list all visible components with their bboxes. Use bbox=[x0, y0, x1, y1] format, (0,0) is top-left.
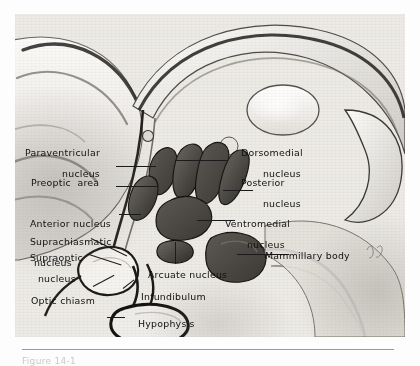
label-line-1: Supraoptic bbox=[30, 252, 83, 263]
label-line-1: Optic chiasm bbox=[31, 295, 95, 306]
label-mammillary-body: Mammillary body bbox=[252, 240, 350, 272]
leader-anterior bbox=[119, 214, 141, 215]
label-line-2: nucleus bbox=[38, 274, 76, 285]
label-line-1: Infundibulum bbox=[141, 291, 206, 302]
label-line-1: Arcuate nucleus bbox=[148, 269, 227, 280]
label-optic-chiasm: Optic chiasm bbox=[18, 285, 95, 317]
figure-page: Paraventricular nucleus Preoptic area An… bbox=[0, 0, 420, 366]
caption-text: Figure 14-1 bbox=[22, 356, 394, 366]
leader-dorsomedial bbox=[175, 160, 227, 161]
label-hypophysis: Hypophysis bbox=[125, 308, 195, 340]
label-line-1: Mammillary body bbox=[265, 250, 350, 261]
label-line-1: Paraventricular bbox=[25, 147, 100, 158]
leader-paraventricular bbox=[116, 166, 156, 167]
leader-preoptic bbox=[116, 186, 158, 187]
label-line-1: Ventromedial bbox=[225, 218, 290, 229]
label-line-1: Preoptic area bbox=[31, 177, 99, 188]
leader-hypophysis bbox=[107, 317, 125, 318]
label-preoptic-area: Preoptic area bbox=[18, 167, 99, 199]
label-line-1: Posterior bbox=[241, 177, 285, 188]
label-line-1: Dorsomedial bbox=[241, 147, 303, 158]
caption-rule bbox=[22, 349, 394, 350]
label-line-1: Hypophysis bbox=[138, 318, 195, 329]
